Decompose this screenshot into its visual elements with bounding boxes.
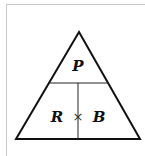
bottom-right-label: B [92, 108, 106, 126]
top-label: P [71, 57, 84, 75]
bottom-left-label: R [50, 108, 63, 126]
multiply-operator: × [73, 109, 84, 124]
formula-triangle: P R × B [0, 0, 145, 156]
